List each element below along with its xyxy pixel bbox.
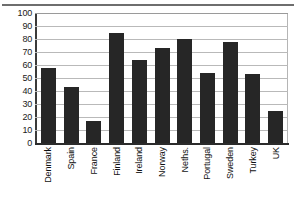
x-tick-portugal: Portugal [196, 147, 219, 205]
x-axis-tick-labels: DenmarkSpainFranceFinlandIrelandNorwayNe… [37, 147, 287, 207]
y-tick-label-0: 0 [2, 139, 32, 148]
bar [223, 42, 238, 143]
x-tick-finland: Finland [105, 147, 128, 205]
y-axis-tick-labels: 1009080706050403020100 [0, 0, 32, 208]
x-tick-label: Portugal [203, 147, 212, 180]
bar [200, 73, 215, 143]
x-tick-label: Finland [112, 147, 121, 176]
x-tick-label: France [89, 147, 98, 174]
x-tick-label: Sweden [226, 147, 235, 179]
x-tick-uk: UK [264, 147, 287, 205]
y-tick-label-40: 40 [2, 87, 32, 96]
bar-chart-figure: 1009080706050403020100 DenmarkSpainFranc… [0, 0, 301, 208]
bar [132, 60, 147, 143]
bar [109, 33, 124, 144]
bar [177, 39, 192, 143]
bar [155, 48, 170, 143]
y-tick-label-30: 30 [2, 100, 32, 109]
bar [41, 68, 56, 143]
y-tick-label-60: 60 [2, 61, 32, 70]
y-tick-label-100: 100 [2, 9, 32, 18]
x-tick-label: UK [271, 147, 280, 159]
y-tick-label-80: 80 [2, 35, 32, 44]
x-tick-label: Denmark [44, 147, 53, 183]
page-top-rule [2, 4, 294, 6]
x-tick-label: Neths. [180, 147, 189, 172]
y-tick-label-70: 70 [2, 48, 32, 57]
x-tick-ireland: Ireland [128, 147, 151, 205]
y-tick-label-90: 90 [2, 22, 32, 31]
bar [86, 121, 101, 143]
x-tick-label: Spain [67, 147, 76, 170]
x-tick-turkey: Turkey [242, 147, 265, 205]
bars-layer [37, 13, 287, 143]
x-tick-spain: Spain [60, 147, 83, 205]
x-tick-label: Turkey [248, 147, 257, 174]
x-tick-label: Ireland [135, 147, 144, 174]
bar [245, 74, 260, 143]
y-tick-label-20: 20 [2, 113, 32, 122]
y-tick-label-50: 50 [2, 74, 32, 83]
bar [64, 87, 79, 143]
x-tick-norway: Norway [151, 147, 174, 205]
bar [268, 111, 283, 144]
x-tick-neths: Neths. [173, 147, 196, 205]
x-tick-label: Norway [157, 147, 166, 177]
x-tick-france: France [82, 147, 105, 205]
x-tick-denmark: Denmark [37, 147, 60, 205]
y-tick-label-10: 10 [2, 126, 32, 135]
x-tick-sweden: Sweden [219, 147, 242, 205]
